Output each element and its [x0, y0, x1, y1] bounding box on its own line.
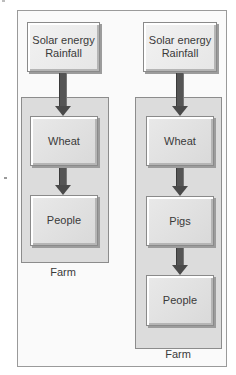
right-source-line1: Solar energy — [149, 34, 211, 47]
right-people-label: People — [163, 294, 197, 307]
arrow-down-icon — [173, 168, 187, 197]
right-pigs-box: Pigs — [146, 196, 214, 246]
right-wheat-label: Wheat — [164, 135, 196, 148]
right-source-line2: Rainfall — [162, 47, 199, 60]
arrow-down-icon — [173, 248, 187, 276]
left-source-line1: Solar energy — [32, 34, 94, 47]
margin-mark — [4, 177, 7, 179]
right-source-box: Solar energy Rainfall — [143, 22, 217, 72]
left-wheat-box: Wheat — [30, 116, 98, 166]
arrow-down-icon — [56, 168, 70, 196]
left-farm-label: Farm — [33, 266, 93, 278]
right-people-box: People — [146, 275, 214, 326]
right-farm-label: Farm — [148, 348, 208, 360]
left-people-box: People — [30, 195, 98, 246]
left-source-box: Solar energy Rainfall — [27, 22, 100, 72]
left-source-line2: Rainfall — [45, 47, 82, 60]
corner-mark — [2, 0, 5, 2]
left-wheat-label: Wheat — [48, 135, 80, 148]
arrow-down-icon — [56, 73, 70, 117]
right-pigs-label: Pigs — [169, 215, 190, 228]
arrow-down-icon — [173, 73, 187, 117]
left-people-label: People — [47, 214, 81, 227]
right-wheat-box: Wheat — [146, 116, 214, 166]
